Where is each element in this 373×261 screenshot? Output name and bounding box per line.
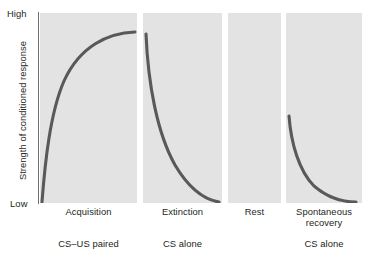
sub-caption-extinction: CS alone [143, 238, 222, 249]
panel-extinction [143, 13, 222, 203]
spontaneous-recovery-curve [289, 116, 356, 202]
caption-acquisition: Acquisition [40, 206, 137, 217]
extinction-curve [146, 34, 219, 202]
caption-extinction: Extinction [143, 206, 222, 217]
extinction-curve-plot [143, 13, 222, 203]
y-axis-title: Strength of conditioned response [17, 21, 28, 201]
panel-spontaneous-recovery [286, 13, 362, 203]
rest-empty-plot [228, 13, 281, 203]
conditioning-curve-figure: High Low Strength of conditioned respons… [0, 0, 373, 261]
acquisition-curve-plot [40, 13, 137, 203]
panel-acquisition [40, 13, 137, 203]
spontaneous-recovery-curve-plot [286, 13, 362, 203]
acquisition-curve [42, 32, 135, 202]
caption-spontaneous-recovery: Spontaneous recovery [283, 206, 365, 229]
y-axis-high-label: High [7, 8, 27, 19]
sub-caption-acquisition: CS–US paired [40, 238, 137, 249]
caption-rest: Rest [228, 206, 281, 217]
panel-rest [228, 13, 281, 203]
sub-caption-spontaneous-recovery: CS alone [283, 238, 365, 249]
